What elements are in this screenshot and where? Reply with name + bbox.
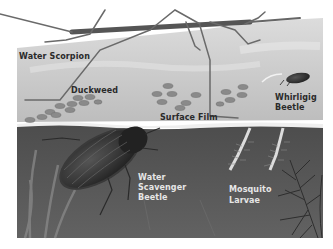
pond-illustration xyxy=(0,0,333,249)
label-whirligig-beetle-line1: Whirligig xyxy=(275,93,317,102)
label-water-scorpion: Water Scorpion xyxy=(19,52,90,61)
label-mosquito-line1: Mosquito xyxy=(229,185,272,194)
label-water-scavenger-line3: Beetle xyxy=(138,193,168,202)
label-surface-film: Surface Film xyxy=(160,113,218,122)
label-water-scavenger-line2: Scavenger xyxy=(138,183,186,192)
label-mosquito-line2: Larvae xyxy=(229,196,260,205)
label-water-scavenger-line1: Water xyxy=(138,173,166,182)
label-duckweed: Duckweed xyxy=(71,86,118,95)
label-whirligig-beetle-line2: Beetle xyxy=(275,103,305,112)
